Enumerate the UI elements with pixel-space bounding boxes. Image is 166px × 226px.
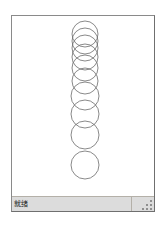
- circle-shape[interactable]: [71, 121, 99, 149]
- status-bar-message-panel: 就绪: [12, 197, 131, 211]
- status-bar-right-panel: [131, 197, 154, 211]
- desktop-background: 就绪: [0, 0, 166, 226]
- status-bar-message: 就绪: [14, 200, 28, 209]
- status-bar: 就绪: [12, 196, 154, 211]
- circle-shape[interactable]: [72, 21, 98, 47]
- circle-stack: [71, 21, 99, 179]
- canvas-area[interactable]: [12, 16, 154, 196]
- circle-shape[interactable]: [71, 100, 99, 128]
- drawing-canvas[interactable]: [12, 16, 154, 196]
- circle-shape[interactable]: [71, 82, 99, 110]
- application-window: 就绪: [11, 15, 155, 212]
- circle-shape[interactable]: [72, 28, 98, 54]
- circle-shape[interactable]: [71, 151, 99, 179]
- resize-grip-icon[interactable]: [141, 199, 153, 211]
